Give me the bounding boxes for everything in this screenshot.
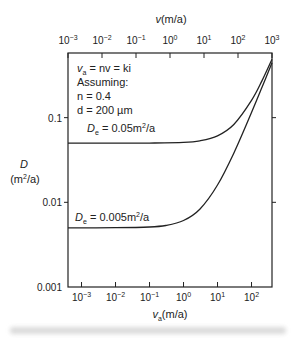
x-tick-label: 10−3 — [72, 291, 91, 303]
bottom-axis-ticks: 10−310−210−1100101102 — [72, 282, 259, 303]
x2-tick-label: 10−3 — [58, 34, 77, 46]
annotation-grain-size: d = 200 µm — [77, 104, 133, 116]
bottom-axis-title: va(m/a) — [152, 308, 187, 322]
x-tick-label: 100 — [176, 291, 191, 303]
x-tick-label: 10−1 — [140, 291, 159, 303]
x2-tick-label: 102 — [230, 34, 245, 46]
y-tick-label: 0.1 — [48, 113, 62, 124]
x2-tick-label: 10−2 — [92, 34, 111, 46]
series-label-lower: De = 0.005m2/a — [75, 211, 150, 225]
x2-tick-label: 100 — [162, 34, 177, 46]
figure-caption-blurred — [10, 327, 286, 334]
y-tick-label: 0.01 — [43, 197, 63, 208]
x2-tick-label: 101 — [196, 34, 211, 46]
plot-frame — [68, 53, 272, 287]
dispersion-chart: 10−310−210−1100101102 10−310−210−1100101… — [0, 0, 293, 338]
annotation-va-equation: va = nv = ki — [77, 62, 131, 76]
annotation-assuming: Assuming: — [77, 76, 128, 88]
x-tick-label: 10−2 — [106, 291, 125, 303]
annotation-porosity: n = 0.4 — [77, 90, 111, 102]
y-axis-title: D — [20, 158, 28, 170]
top-axis-ticks: 10−310−210−1100101102103 — [58, 34, 279, 58]
y-axis-units: (m2/a) — [10, 173, 40, 185]
x2-tick-label: 10−1 — [126, 34, 145, 46]
x-tick-label: 102 — [244, 291, 259, 303]
top-axis-title: v(m/a) — [155, 13, 186, 25]
y-tick-label: 0.001 — [37, 282, 62, 293]
x2-tick-label: 103 — [264, 34, 279, 46]
x-tick-label: 101 — [210, 291, 225, 303]
series-label-upper: De = 0.05m2/a — [87, 122, 156, 136]
